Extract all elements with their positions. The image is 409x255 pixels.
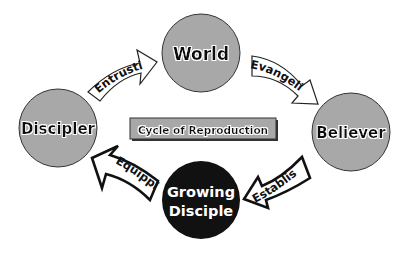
arrow-label-evangelizing: Evangelizing <box>0 0 306 94</box>
node-growing-disciple: Growing Disciple <box>162 161 240 239</box>
title-box: Cycle of Reproduction <box>130 118 278 141</box>
cycle-diagram: Entrusting Evangelizing Equipping Establ… <box>0 0 409 255</box>
node-label-disciple: Disciple <box>169 203 234 219</box>
node-label-discipler: Discipler <box>21 120 96 138</box>
arrow-label-entrusting: Entrusting <box>0 0 144 96</box>
node-label-world: World <box>173 44 229 64</box>
node-label-growing: Growing <box>167 184 235 200</box>
arrow-entrusting: Entrusting <box>0 0 157 101</box>
node-label-believer: Believer <box>316 124 386 142</box>
node-believer: Believer <box>312 93 390 171</box>
node-discipler: Discipler <box>19 89 97 167</box>
arrow-evangelizing: Evangelizing <box>0 0 318 104</box>
node-world: World <box>162 14 240 92</box>
diagram-title: Cycle of Reproduction <box>138 124 268 136</box>
